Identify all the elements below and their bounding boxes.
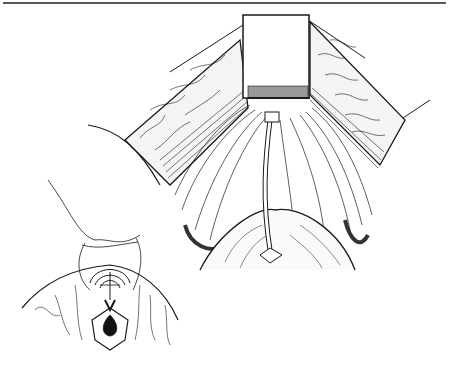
inset-view (22, 180, 178, 350)
surgical-illustration (0, 0, 449, 366)
illustration-canvas (0, 0, 449, 366)
main-view (88, 15, 430, 270)
